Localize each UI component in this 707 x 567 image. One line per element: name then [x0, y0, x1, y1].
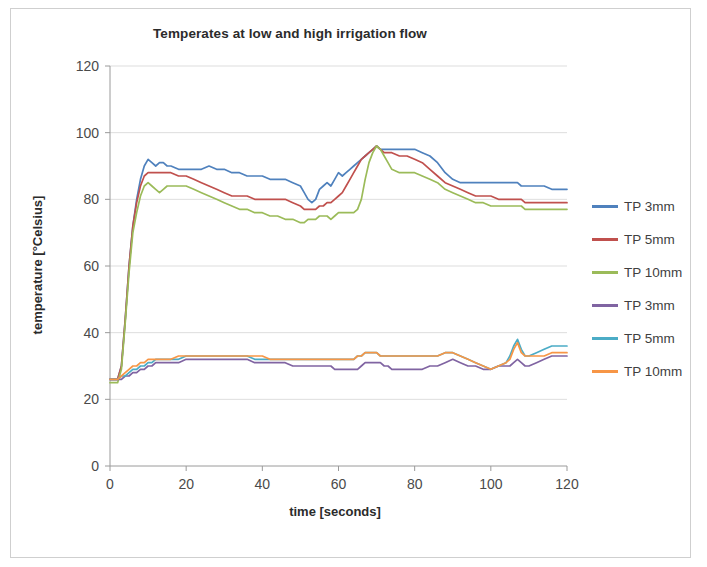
legend-label: TP 5mm: [624, 232, 675, 247]
legend-label: TP 10mm: [624, 265, 682, 280]
legend-color-swatch: [592, 205, 618, 208]
legend-color-swatch: [592, 370, 618, 373]
x-tick-label: 0: [106, 476, 114, 492]
x-tick-label: 40: [255, 476, 271, 492]
series-line-0: [110, 146, 567, 379]
x-tick-label: 20: [178, 476, 194, 492]
chart-page: Temperates at low and high irrigation fl…: [0, 0, 707, 567]
series-line-5: [110, 343, 567, 380]
legend-color-swatch: [592, 337, 618, 340]
legend-item[interactable]: TP 10mm: [592, 256, 707, 289]
y-tick-label: 80: [83, 191, 99, 207]
legend-item[interactable]: TP 3mm: [592, 289, 707, 322]
series-line-1: [110, 146, 567, 379]
legend-label: TP 3mm: [624, 199, 675, 214]
chart-legend: TP 3mmTP 5mmTP 10mmTP 3mmTP 5mmTP 10mm: [592, 190, 707, 388]
y-tick-label: 20: [83, 391, 99, 407]
legend-label: TP 3mm: [624, 298, 675, 313]
x-tick-label: 120: [555, 476, 579, 492]
legend-item[interactable]: TP 10mm: [592, 355, 707, 388]
x-tick-label: 60: [331, 476, 347, 492]
x-tick-label: 100: [479, 476, 503, 492]
legend-color-swatch: [592, 238, 618, 241]
legend-item[interactable]: TP 5mm: [592, 223, 707, 256]
x-axis-tick-labels: 020406080100120: [106, 476, 579, 492]
y-tick-label: 120: [76, 58, 100, 74]
y-tick-label: 100: [76, 125, 100, 141]
series-line-2: [110, 146, 567, 383]
axis-ticks: [105, 66, 567, 471]
legend-color-swatch: [592, 304, 618, 307]
chart-container: Temperates at low and high irrigation fl…: [0, 0, 707, 567]
x-tick-label: 80: [407, 476, 423, 492]
legend-color-swatch: [592, 271, 618, 274]
y-axis-tick-labels: 020406080100120: [76, 58, 100, 474]
gridlines: [110, 66, 567, 399]
data-series: [110, 146, 567, 383]
y-tick-label: 0: [91, 458, 99, 474]
legend-label: TP 5mm: [624, 331, 675, 346]
x-axis-title: time [seconds]: [289, 504, 381, 519]
legend-label: TP 10mm: [624, 364, 682, 379]
legend-item[interactable]: TP 5mm: [592, 322, 707, 355]
y-tick-label: 60: [83, 258, 99, 274]
legend-item[interactable]: TP 3mm: [592, 190, 707, 223]
y-tick-label: 40: [83, 325, 99, 341]
y-axis-title: temperature [°Celsius]: [30, 196, 45, 335]
